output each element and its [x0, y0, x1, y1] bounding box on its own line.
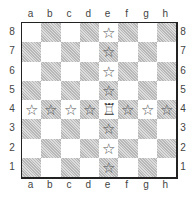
square-e1: ☆: [99, 158, 118, 177]
square-a1: [22, 158, 41, 177]
square-f6: [118, 62, 137, 81]
square-d2: [80, 139, 99, 158]
square-f7: [118, 42, 137, 61]
square-f4: ☆: [118, 100, 137, 119]
square-e8: ☆: [99, 23, 118, 42]
square-g5: [138, 81, 157, 100]
file-label-c: c: [60, 179, 79, 191]
square-g3: [138, 119, 157, 138]
square-d7: [80, 42, 99, 61]
rank-label-8: 8: [6, 26, 18, 38]
square-a7: [22, 42, 41, 61]
square-c1: [61, 158, 80, 177]
square-h8: [157, 23, 176, 42]
square-g8: [138, 23, 157, 42]
square-e5: ☆: [99, 81, 118, 100]
square-e2: ☆: [99, 139, 118, 158]
star-icon: ☆: [25, 102, 38, 117]
square-d1: [80, 158, 99, 177]
star-icon: ☆: [141, 102, 154, 117]
rank-label-1: 1: [177, 161, 189, 173]
rank-label-1: 1: [6, 161, 18, 173]
file-label-c: c: [60, 8, 79, 20]
square-c3: [61, 119, 80, 138]
chessboard: ☆☆☆☆☆☆☆☆♖☆☆☆☆☆☆: [21, 22, 178, 179]
square-c2: [61, 139, 80, 158]
square-b4: ☆: [41, 100, 60, 119]
file-label-h: h: [156, 179, 175, 191]
file-label-a: a: [21, 179, 40, 191]
square-c5: [61, 81, 80, 100]
square-b5: [41, 81, 60, 100]
square-f3: [118, 119, 137, 138]
square-a5: [22, 81, 41, 100]
file-label-a: a: [21, 8, 40, 20]
square-a4: ☆: [22, 100, 41, 119]
square-g6: [138, 62, 157, 81]
star-icon: ☆: [102, 83, 115, 98]
square-d3: [80, 119, 99, 138]
square-b2: [41, 139, 60, 158]
file-label-g: g: [137, 179, 156, 191]
square-c6: [61, 62, 80, 81]
square-h7: [157, 42, 176, 61]
square-a3: [22, 119, 41, 138]
square-e4: ♖: [99, 100, 118, 119]
rank-label-2: 2: [177, 142, 189, 154]
file-label-f: f: [117, 179, 136, 191]
rank-label-3: 3: [177, 122, 189, 134]
file-label-b: b: [40, 179, 59, 191]
file-label-e: e: [98, 179, 117, 191]
square-d5: [80, 81, 99, 100]
square-e3: ☆: [99, 119, 118, 138]
rank-label-8: 8: [177, 26, 189, 38]
square-b8: [41, 23, 60, 42]
rank-label-2: 2: [6, 142, 18, 154]
square-d8: [80, 23, 99, 42]
star-icon: ☆: [102, 160, 115, 175]
square-h2: [157, 139, 176, 158]
square-f2: [118, 139, 137, 158]
rank-label-5: 5: [177, 84, 189, 96]
square-f8: [118, 23, 137, 42]
star-icon: ☆: [102, 121, 115, 136]
square-d4: ☆: [80, 100, 99, 119]
rank-label-4: 4: [6, 103, 18, 115]
square-h1: [157, 158, 176, 177]
square-g4: ☆: [138, 100, 157, 119]
square-b3: [41, 119, 60, 138]
file-label-f: f: [117, 8, 136, 20]
rank-label-4: 4: [177, 103, 189, 115]
star-icon: ☆: [121, 102, 134, 117]
star-icon: ☆: [83, 102, 96, 117]
star-icon: ☆: [102, 64, 115, 79]
square-c4: ☆: [61, 100, 80, 119]
star-icon: ☆: [44, 102, 57, 117]
square-f1: [118, 158, 137, 177]
square-h4: ☆: [157, 100, 176, 119]
file-label-g: g: [137, 8, 156, 20]
square-h3: [157, 119, 176, 138]
square-a8: [22, 23, 41, 42]
square-a6: [22, 62, 41, 81]
square-f5: [118, 81, 137, 100]
square-g2: [138, 139, 157, 158]
square-e7: ☆: [99, 42, 118, 61]
rank-label-7: 7: [6, 45, 18, 57]
star-icon: ☆: [64, 102, 77, 117]
star-icon: ☆: [102, 25, 115, 40]
file-label-h: h: [156, 8, 175, 20]
square-g1: [138, 158, 157, 177]
square-e6: ☆: [99, 62, 118, 81]
square-c8: [61, 23, 80, 42]
file-label-d: d: [79, 8, 98, 20]
star-icon: ☆: [160, 102, 173, 117]
square-g7: [138, 42, 157, 61]
white-rook-icon: ♖: [102, 102, 116, 118]
rank-label-5: 5: [6, 84, 18, 96]
square-b6: [41, 62, 60, 81]
square-a2: [22, 139, 41, 158]
rank-label-3: 3: [6, 122, 18, 134]
square-h5: [157, 81, 176, 100]
rank-label-7: 7: [177, 45, 189, 57]
